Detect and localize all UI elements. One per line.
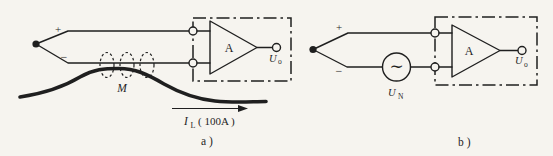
amplifier-triangle-a	[210, 21, 257, 74]
input-terminal-bottom-b	[431, 63, 439, 71]
output-voltage-main-a: U	[269, 53, 278, 64]
signal-wire-top-b	[313, 33, 431, 50]
output-voltage-sub-b: o	[524, 60, 528, 69]
amplifier-gain-label-b: A	[465, 44, 474, 58]
caption-a: a )	[201, 135, 213, 148]
input-terminal-top-a	[189, 27, 197, 35]
ac-noise-source: ∼	[383, 53, 411, 81]
amplifier-triangle-b	[452, 25, 500, 77]
amplifier-gain-label-a: A	[225, 41, 234, 55]
noise-label-sub: N	[398, 92, 404, 101]
ac-source-tilde-icon: ∼	[389, 57, 403, 76]
output-voltage-label-a: U o	[269, 53, 282, 67]
signal-wire-bottom-b	[313, 50, 383, 68]
output-voltage-main-b: U	[515, 55, 524, 66]
caption-b: b )	[458, 136, 471, 149]
input-terminal-bottom-a	[189, 59, 197, 67]
circuit-a: + − M A U o I L ( 100A ) a )	[20, 18, 291, 148]
minus-label-b: −	[336, 64, 343, 78]
signal-wire-bottom-a	[36, 44, 189, 63]
plus-label-b: +	[336, 21, 342, 33]
output-voltage-sub-a: o	[278, 57, 282, 66]
power-cable	[20, 69, 266, 103]
output-voltage-label-b: U o	[515, 55, 528, 69]
output-terminal-b	[518, 47, 526, 55]
mutual-inductance-label: M	[116, 82, 128, 94]
current-arrow-head-icon	[238, 105, 248, 112]
noise-source-label: U N	[388, 87, 404, 101]
input-terminal-top-b	[431, 29, 439, 37]
output-terminal-a	[273, 44, 281, 52]
current-label: I L ( 100A )	[183, 115, 235, 130]
current-arrow	[172, 105, 248, 112]
minus-label-a: −	[61, 50, 68, 64]
figure-canvas: + − M A U o I L ( 100A ) a ) ∼	[0, 0, 553, 156]
coil-turn-icon	[100, 53, 114, 78]
plus-label-a: +	[55, 23, 61, 35]
current-label-main: I	[183, 115, 189, 127]
noise-label-main: U	[388, 87, 397, 98]
coil-turn-icon	[120, 53, 134, 78]
current-label-value: ( 100A )	[198, 115, 235, 128]
circuit-b: ∼ + − U N A U o b )	[309, 17, 537, 149]
current-label-sub: L	[191, 121, 196, 130]
